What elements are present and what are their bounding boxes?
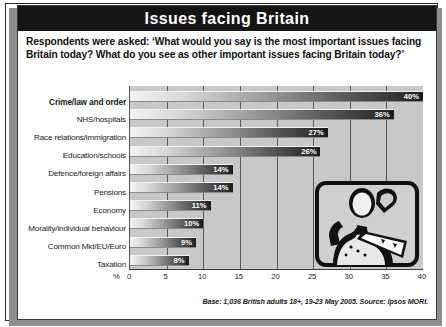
category-label: Defence/foreign affairs — [18, 169, 126, 179]
bar-value-label: 8% — [167, 255, 185, 266]
title-bar: Issues facing Britain — [18, 6, 436, 31]
axis-tick-label: 5 — [164, 272, 168, 281]
bar-value-label: 40% — [401, 91, 419, 102]
axis-tick-label: 35 — [381, 272, 389, 281]
bar-row: 40% — [130, 91, 423, 102]
bar-row: 26% — [130, 146, 423, 157]
axis-unit-label: % — [113, 272, 120, 281]
bar-row: 27% — [130, 127, 423, 138]
bar-value-label: 10% — [181, 218, 199, 229]
chart-area: Crime/law and orderNHS/hospitalsRace rel… — [18, 86, 436, 291]
bar — [130, 109, 394, 120]
bar — [130, 91, 423, 102]
worker-with-saw-illustration — [315, 181, 419, 267]
poster-root: Issues facing Britain Respondents were a… — [0, 0, 446, 327]
question-text: Respondents were asked: ‘What would you … — [26, 35, 426, 61]
category-label: Crime/law and order — [18, 97, 126, 107]
category-label: Morality/individual behaviour — [18, 224, 126, 234]
x-axis-line — [129, 269, 423, 270]
x-axis-ticks: 0510152025303540 — [129, 271, 423, 285]
bar-value-label: 9% — [174, 237, 192, 248]
bar-value-label: 11% — [189, 200, 207, 211]
category-label: Economy — [18, 206, 126, 216]
bar-value-label: 36% — [372, 109, 390, 120]
plot-region: 40%36%27%26%14%14%11%10%9%8% — [129, 86, 423, 269]
category-label: Taxation — [18, 260, 126, 270]
bar-row: 36% — [130, 109, 423, 120]
category-axis-labels: Crime/law and orderNHS/hospitalsRace rel… — [18, 92, 126, 272]
bar-value-label: 14% — [211, 182, 229, 193]
axis-tick-label: 25 — [308, 272, 316, 281]
bar — [130, 146, 320, 157]
bar-row: 14% — [130, 164, 423, 175]
category-label: Common Mkt/EU/Euro — [18, 242, 126, 252]
bar-value-label: 27% — [306, 127, 324, 138]
axis-tick-label: 30 — [345, 272, 353, 281]
axis-tick-label: 15 — [235, 272, 243, 281]
source-note: Base: 1,036 British adults 18+, 19-23 Ma… — [202, 297, 428, 306]
axis-tick-label: 10 — [198, 272, 206, 281]
category-label: Education/schools — [18, 151, 126, 161]
category-label: Race relations/immigration — [18, 133, 126, 143]
category-label: Pensions — [18, 188, 126, 198]
bar-value-label: 26% — [298, 146, 316, 157]
bar-value-label: 14% — [211, 164, 229, 175]
axis-tick-label: 40 — [418, 272, 426, 281]
axis-tick-label: 20 — [271, 272, 279, 281]
axis-tick-label: 0 — [127, 272, 131, 281]
category-label: NHS/hospitals — [18, 115, 126, 125]
page-title: Issues facing Britain — [145, 10, 310, 28]
bar — [130, 127, 328, 138]
chart-card: Issues facing Britain Respondents were a… — [17, 5, 437, 320]
